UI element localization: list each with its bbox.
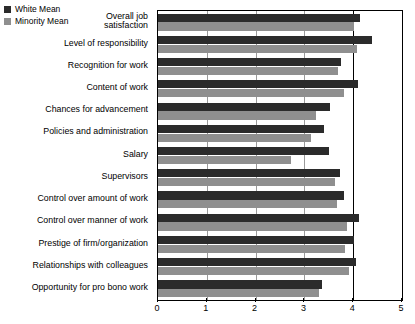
bar-minority-mean	[158, 89, 344, 97]
bar-white-mean	[158, 80, 358, 88]
category-label: Policies and administration	[0, 127, 148, 137]
gridline-4	[353, 11, 354, 300]
category-label: Control over manner of work	[0, 216, 148, 226]
chart-root: White Mean Minority Mean Overall job sat…	[0, 0, 415, 324]
bar-minority-mean	[158, 245, 345, 253]
x-tick-label-3: 3	[301, 303, 306, 313]
bar-minority-mean	[158, 200, 337, 208]
bar-minority-mean	[158, 22, 354, 30]
x-tick-mark-0	[157, 298, 158, 302]
category-label: Control over amount of work	[0, 194, 148, 204]
category-label: Content of work	[0, 83, 148, 93]
bar-white-mean	[158, 169, 340, 177]
bar-white-mean	[158, 36, 372, 44]
category-label: Level of responsibility	[0, 39, 148, 49]
category-label: Overall job satisfaction	[0, 12, 148, 31]
bar-white-mean	[158, 280, 322, 288]
category-label: Opportunity for pro bono work	[0, 283, 148, 293]
bar-minority-mean	[158, 67, 338, 75]
bar-minority-mean	[158, 134, 311, 142]
category-label: Prestige of firm/organization	[0, 239, 148, 249]
bar-white-mean	[158, 14, 360, 22]
x-tick-mark-4	[352, 298, 353, 302]
x-tick-label-5: 5	[398, 303, 403, 313]
gridline-3	[304, 11, 305, 300]
category-label: Chances for advancement	[0, 105, 148, 115]
bar-white-mean	[158, 214, 359, 222]
bar-minority-mean	[158, 267, 349, 275]
x-tick-mark-2	[255, 298, 256, 302]
bar-minority-mean	[158, 45, 357, 53]
bar-minority-mean	[158, 111, 316, 119]
bar-white-mean	[158, 58, 341, 66]
bar-white-mean	[158, 258, 356, 266]
category-axis-labels: Overall job satisfactionLevel of respons…	[0, 10, 152, 301]
category-label: Recognition for work	[0, 61, 148, 71]
bar-white-mean	[158, 236, 354, 244]
x-tick-label-0: 0	[154, 303, 159, 313]
bar-minority-mean	[158, 156, 291, 164]
category-label: Salary	[0, 150, 148, 160]
x-axis-tick-labels: 012345	[157, 303, 403, 317]
x-tick-mark-1	[206, 298, 207, 302]
x-tick-mark-3	[303, 298, 304, 302]
plot-area	[157, 10, 403, 301]
bar-white-mean	[158, 125, 324, 133]
x-tick-label-4: 4	[350, 303, 355, 313]
x-tick-label-1: 1	[203, 303, 208, 313]
bar-minority-mean	[158, 222, 347, 230]
bar-minority-mean	[158, 178, 335, 186]
category-label: Relationships with colleagues	[0, 261, 148, 271]
bar-white-mean	[158, 147, 329, 155]
bar-white-mean	[158, 103, 330, 111]
x-tick-label-2: 2	[252, 303, 257, 313]
x-tick-mark-5	[401, 298, 402, 302]
bar-white-mean	[158, 191, 344, 199]
category-label: Supervisors	[0, 172, 148, 182]
bar-minority-mean	[158, 289, 319, 297]
